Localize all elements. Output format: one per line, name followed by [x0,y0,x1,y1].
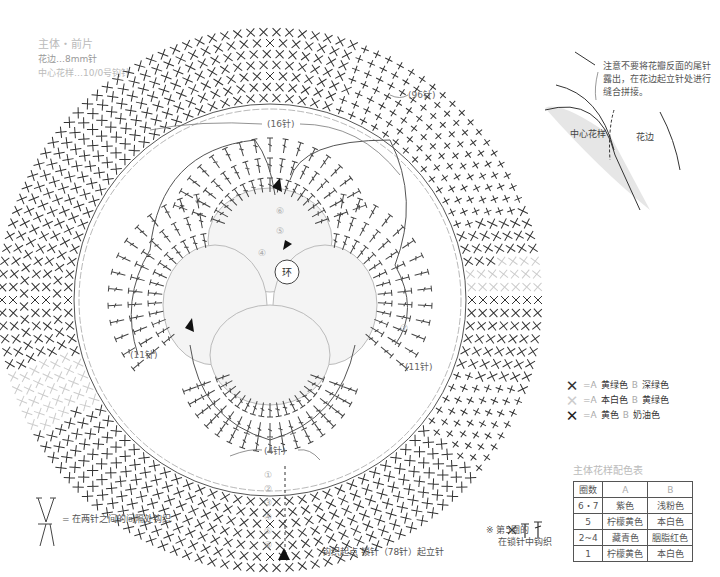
svg-text:④: ④ [258,248,266,258]
table-row: 2~4藏青色胭脂红色 [574,530,693,546]
start-note: 钩织起点 锁针（78针）起立针 [322,545,444,558]
svg-text:⑤: ⑤ [264,526,272,536]
legend-item: ✕ =A黄色 B奶油色 [565,408,669,423]
seam-note: 注意不要将花瓣反面的尾针露出，在花边起立针处进行缝合拼接。 [603,60,713,99]
svg-text:⑤: ⑤ [276,226,284,236]
color-table: 圈数 A B 6・7紫色浅粉色 5柠檬黄色本白色 2~4藏青色胭脂红色 1柠檬黄… [573,481,693,562]
table-row: 6・7紫色浅粉色 [574,498,693,514]
center-motif [163,188,377,405]
table-row: 5柠檬黄色本白色 [574,514,693,530]
svg-text:②: ② [264,484,272,494]
label-4: (4针) [264,445,286,456]
round5-note: ※ 第5圈的 在锁针中钩织 [486,524,552,548]
color-legend: ✕ =A黄绿色 B深绿色 ✕ =A本白色 B黄绿色 ✕ =A黄色 B奶油色 [565,378,669,423]
legend-item: ✕ =A本白色 B黄绿色 [565,393,669,408]
svg-text:③: ③ [264,498,272,508]
svg-text:①: ① [264,470,272,480]
svg-text:⑥: ⑥ [264,540,272,550]
between-stitches-symbol [36,498,56,546]
svg-text:花边: 花边 [636,131,654,142]
between-stitches-note: = 在两针之间的间隔处钩织 [62,512,171,525]
color-table-title: 主体花样配色表 [573,462,643,477]
svg-text:⑦: ⑦ [400,323,408,333]
single-crochet-dark-icon: ✕ [565,409,579,423]
svg-text:⑥: ⑥ [276,206,284,216]
legend-item: ✕ =A黄绿色 B深绿色 [565,378,669,393]
single-crochet-light-icon: ✕ [565,394,579,408]
svg-text:④: ④ [264,512,272,522]
table-row: 1柠檬黄色本白色 [574,546,693,562]
single-crochet-icon: ✕ [565,379,579,393]
label-96: (96针) [408,89,435,100]
petal-stitches [108,138,432,452]
ring-label: 环 [282,267,292,278]
label-16: (16针) [267,118,294,129]
svg-text:中心花样: 中心花样 [570,128,606,139]
label-11-right: (11针) [405,361,432,372]
label-11-left: (11针) [130,349,157,360]
